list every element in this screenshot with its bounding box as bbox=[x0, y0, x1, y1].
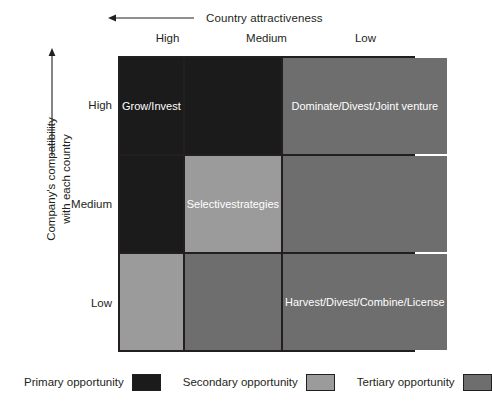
legend-label-primary: Primary opportunity bbox=[24, 376, 124, 388]
matrix-cell-low-medium[interactable] bbox=[185, 254, 281, 350]
column-header-high: High bbox=[118, 32, 217, 44]
row-label-medium: Medium bbox=[58, 155, 112, 254]
column-headers: High Medium Low bbox=[118, 32, 415, 44]
matrix-cell-high-medium[interactable] bbox=[185, 58, 281, 154]
legend-label-secondary: Secondary opportunity bbox=[183, 376, 298, 388]
matrix-cell-high-high[interactable]: Grow/Invest bbox=[120, 58, 183, 154]
top-axis-label: Country attractiveness bbox=[206, 12, 323, 24]
row-label-low: Low bbox=[58, 253, 112, 352]
legend-item-primary: Primary opportunity bbox=[24, 374, 161, 391]
row-label-high: High bbox=[58, 56, 112, 155]
left-arrow-icon bbox=[108, 13, 194, 23]
legend-swatch-primary bbox=[132, 374, 161, 391]
left-axis-label-line1: Company's compatibility bbox=[44, 117, 59, 241]
matrix-cell-low-low[interactable]: Harvest/Divest/Combine/License bbox=[283, 254, 447, 350]
legend-item-tertiary: Tertiary opportunity bbox=[357, 374, 492, 391]
column-header-low: Low bbox=[316, 32, 415, 44]
legend-swatch-secondary bbox=[306, 374, 335, 391]
matrix-cell-medium-medium[interactable]: Selectivestrategies bbox=[185, 156, 281, 252]
matrix-cell-medium-high[interactable] bbox=[120, 156, 183, 252]
legend-swatch-tertiary bbox=[463, 374, 492, 391]
matrix-cell-low-high[interactable] bbox=[120, 254, 183, 350]
column-header-medium: Medium bbox=[217, 32, 316, 44]
matrix-cell-high-low[interactable]: Dominate/Divest/Joint venture bbox=[283, 58, 447, 154]
legend-label-tertiary: Tertiary opportunity bbox=[357, 376, 455, 388]
matrix-cell-medium-low[interactable] bbox=[283, 156, 447, 252]
strategy-matrix: Grow/Invest Dominate/Divest/Joint ventur… bbox=[118, 56, 415, 352]
row-labels: High Medium Low bbox=[58, 56, 112, 352]
legend: Primary opportunity Secondary opportunit… bbox=[24, 371, 424, 393]
legend-item-secondary: Secondary opportunity bbox=[183, 374, 335, 391]
top-axis: Country attractiveness bbox=[108, 7, 418, 29]
